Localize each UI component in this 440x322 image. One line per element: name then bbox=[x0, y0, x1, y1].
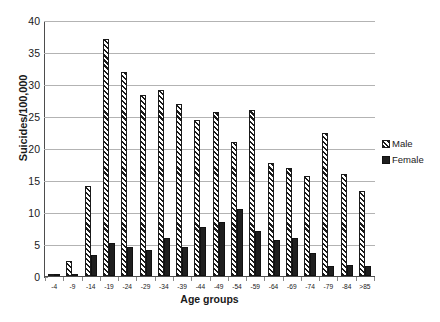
x-axis-tick-mark bbox=[191, 277, 192, 281]
bar-female bbox=[365, 266, 371, 276]
y-axis-tick-label: 10 bbox=[18, 208, 40, 218]
bar-female bbox=[292, 238, 298, 276]
bar-female bbox=[72, 274, 78, 276]
bar-group bbox=[338, 20, 356, 276]
bar-group bbox=[82, 20, 100, 276]
x-axis-tick-mark bbox=[45, 277, 46, 281]
bar-group bbox=[155, 20, 173, 276]
legend-label-male: Male bbox=[392, 138, 413, 149]
bar-male bbox=[322, 133, 328, 276]
bar-group bbox=[283, 20, 301, 276]
bar-female bbox=[255, 231, 261, 276]
chart-figure: Suicides/100,000 0510152025303540 -4-9-1… bbox=[0, 0, 440, 322]
bar-female bbox=[109, 243, 115, 276]
y-axis-tick-labels: 0510152025303540 bbox=[18, 16, 40, 282]
bar-group bbox=[118, 20, 136, 276]
bar-group bbox=[173, 20, 191, 276]
bar-female bbox=[146, 250, 152, 276]
bar-female bbox=[91, 255, 97, 276]
y-axis-tick-label: 15 bbox=[18, 176, 40, 186]
x-axis-tick-mark bbox=[246, 277, 247, 281]
y-axis-tick-label: 5 bbox=[18, 240, 40, 250]
bar-female bbox=[237, 209, 243, 276]
plot-area bbox=[44, 21, 375, 277]
x-axis-tick-mark bbox=[356, 277, 357, 281]
bar-group bbox=[210, 20, 228, 276]
legend-item-male: Male bbox=[382, 138, 440, 149]
x-axis-tick-marks bbox=[44, 277, 375, 281]
bar-female bbox=[347, 265, 353, 276]
bar-female bbox=[127, 247, 133, 276]
y-axis-tick-label: 25 bbox=[18, 112, 40, 122]
bar-group bbox=[191, 20, 209, 276]
x-axis-tick-mark bbox=[374, 277, 375, 281]
bar-groups bbox=[44, 20, 375, 276]
legend-swatch-female-icon bbox=[382, 156, 390, 164]
bar-group bbox=[319, 20, 337, 276]
bar-female bbox=[274, 240, 280, 276]
y-axis-tick-label: 35 bbox=[18, 48, 40, 58]
bar-group bbox=[264, 20, 282, 276]
x-axis-tick-mark bbox=[173, 277, 174, 281]
bar-group bbox=[63, 20, 81, 276]
caption-fragment bbox=[0, 314, 440, 322]
x-axis-tick-mark bbox=[337, 277, 338, 281]
x-axis-tick-mark bbox=[63, 277, 64, 281]
x-axis-tick-mark bbox=[301, 277, 302, 281]
bar-male bbox=[103, 39, 109, 276]
legend-label-female: Female bbox=[392, 154, 424, 165]
bar-group bbox=[136, 20, 154, 276]
y-axis-tick-label: 0 bbox=[18, 272, 40, 282]
legend-item-female: Female bbox=[382, 154, 440, 165]
bar-group bbox=[100, 20, 118, 276]
x-axis-tick-mark bbox=[210, 277, 211, 281]
bar-female bbox=[164, 238, 170, 276]
x-axis-tick-mark bbox=[228, 277, 229, 281]
bar-female bbox=[54, 274, 60, 276]
bar-female bbox=[328, 266, 334, 276]
bar-male bbox=[359, 191, 365, 276]
legend: Male Female bbox=[382, 138, 440, 170]
y-axis-tick-label: 40 bbox=[18, 16, 40, 26]
x-axis-title: Age groups bbox=[44, 293, 375, 305]
bar-female bbox=[182, 247, 188, 276]
x-axis-tick-mark bbox=[155, 277, 156, 281]
y-axis-tick-label: 20 bbox=[18, 144, 40, 154]
bar-group bbox=[246, 20, 264, 276]
bar-female bbox=[200, 227, 206, 276]
legend-swatch-male-icon bbox=[382, 140, 390, 148]
bar-group bbox=[301, 20, 319, 276]
x-axis-tick-mark bbox=[264, 277, 265, 281]
x-axis-tick-mark bbox=[319, 277, 320, 281]
bar-group bbox=[45, 20, 63, 276]
x-axis-tick-mark bbox=[283, 277, 284, 281]
bar-male bbox=[121, 72, 127, 276]
x-axis-tick-mark bbox=[136, 277, 137, 281]
x-axis-tick-mark bbox=[100, 277, 101, 281]
x-axis-tick-mark bbox=[82, 277, 83, 281]
bar-group bbox=[356, 20, 374, 276]
bar-group bbox=[228, 20, 246, 276]
bar-male bbox=[341, 174, 347, 276]
bar-female bbox=[219, 222, 225, 276]
y-axis-tick-label: 30 bbox=[18, 80, 40, 90]
x-axis-tick-mark bbox=[118, 277, 119, 281]
bar-female bbox=[310, 253, 316, 276]
